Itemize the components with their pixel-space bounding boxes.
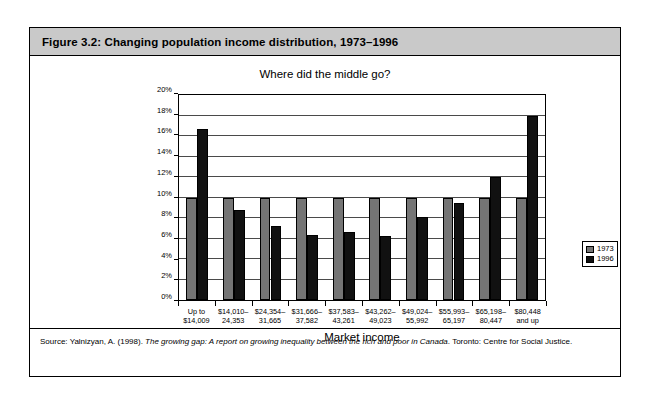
- legend-label: 1973: [597, 244, 614, 254]
- x-axis-tick: [252, 301, 253, 306]
- bar-1996-3: [307, 235, 318, 300]
- x-axis-tick: [472, 301, 473, 306]
- x-axis-label: $24,354–31,665: [255, 307, 285, 325]
- x-axis-tick: [509, 301, 510, 306]
- bar-1996-6: [417, 217, 428, 300]
- y-axis-label: 10%: [142, 188, 172, 197]
- x-axis-label: $14,010–24,353: [218, 307, 248, 325]
- y-axis-tick: [174, 134, 178, 135]
- source-bar: Source: Yalnizyan, A. (1998). The growin…: [30, 328, 620, 376]
- x-axis-tick: [325, 301, 326, 306]
- y-axis-label: 2%: [142, 271, 172, 280]
- bar-1973-6: [406, 198, 417, 301]
- figure-caption-text: Figure 3.2: Changing population income d…: [30, 36, 398, 48]
- y-axis-label: 6%: [142, 229, 172, 238]
- bar-1996-0: [197, 129, 208, 300]
- bar-1973-1: [223, 198, 234, 301]
- x-axis-label: $43,262–49,023: [365, 307, 395, 325]
- bar-1973-4: [333, 198, 344, 301]
- y-axis-label: 0%: [142, 292, 172, 301]
- x-axis-label: $37,583–43,261: [328, 307, 358, 325]
- x-axis-label: $49,024–55,992: [402, 307, 432, 325]
- y-axis-tick: [174, 197, 178, 198]
- y-axis-label: 16%: [142, 126, 172, 135]
- y-axis-tick: [174, 176, 178, 177]
- y-axis-tick: [174, 238, 178, 239]
- bar-1996-4: [344, 232, 355, 300]
- x-axis-label: $31,666–37,582: [292, 307, 322, 325]
- plot-wrapper: 0%2%4%6%8%10%12%14%16%18%20% Up to$14,00…: [178, 94, 546, 301]
- bar-1973-5: [369, 198, 380, 301]
- chart-title: Where did the middle go?: [30, 68, 620, 80]
- figure-container: Figure 3.2: Changing population income d…: [29, 27, 621, 377]
- bar-1973-3: [296, 198, 307, 301]
- legend-label: 1996: [597, 254, 614, 264]
- y-axis-label: 20%: [142, 85, 172, 94]
- bar-1973-7: [443, 198, 454, 301]
- y-axis-label: 14%: [142, 147, 172, 156]
- y-axis-tick: [174, 259, 178, 260]
- bar-1973-0: [186, 198, 197, 301]
- bar-1996-1: [234, 210, 245, 300]
- x-axis-tick: [288, 301, 289, 306]
- y-axis-tick: [174, 217, 178, 218]
- x-axis-label: Up to$14,009: [183, 307, 209, 325]
- bar-1973-8: [479, 198, 490, 301]
- y-axis-label: 18%: [142, 105, 172, 114]
- x-axis-tick: [546, 301, 547, 306]
- bar-1996-8: [490, 177, 501, 300]
- bars-layer: [179, 95, 545, 300]
- x-axis-tick: [215, 301, 216, 306]
- source-title: The growing gap: A report on growing ine…: [145, 337, 448, 346]
- bar-1973-2: [260, 198, 271, 301]
- source-note: Source: Yalnizyan, A. (1998). The growin…: [40, 336, 610, 348]
- chart-region: Where did the middle go? 0%2%4%6%8%10%12…: [30, 56, 620, 328]
- x-axis-tick: [178, 301, 179, 306]
- plot-area: [178, 94, 546, 301]
- y-axis-tick: [174, 93, 178, 94]
- x-axis-label: $55,993–65,197: [439, 307, 469, 325]
- legend-swatch-icon: [586, 256, 594, 263]
- chart-legend: 19731996: [582, 241, 618, 267]
- bar-1996-2: [271, 226, 282, 300]
- legend-item: 1996: [586, 254, 614, 264]
- x-axis-label: $65,198–80,447: [476, 307, 506, 325]
- figure-caption-bar: Figure 3.2: Changing population income d…: [30, 28, 620, 56]
- bar-1996-5: [380, 236, 391, 300]
- bar-1996-7: [454, 203, 465, 300]
- bar-1996-9: [527, 116, 538, 301]
- legend-item: 1973: [586, 244, 614, 254]
- y-axis-tick: [174, 114, 178, 115]
- y-axis-tick: [174, 155, 178, 156]
- x-axis-tick: [399, 301, 400, 306]
- y-axis-tick: [174, 279, 178, 280]
- y-axis-label: 8%: [142, 209, 172, 218]
- x-axis-tick: [436, 301, 437, 306]
- y-axis-label: 4%: [142, 250, 172, 259]
- x-axis-label: $80,448and up: [514, 307, 540, 325]
- y-axis-label: 12%: [142, 167, 172, 176]
- bar-1973-9: [516, 198, 527, 301]
- legend-swatch-icon: [586, 246, 594, 253]
- x-axis-tick: [362, 301, 363, 306]
